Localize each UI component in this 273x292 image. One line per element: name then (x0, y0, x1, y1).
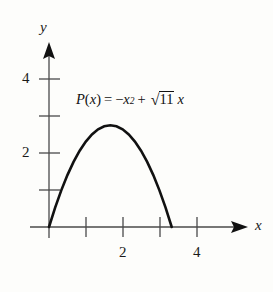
equation-squared-base: x (123, 92, 129, 107)
y-tick-label-4: 4 (22, 71, 30, 86)
equation-trailing-variable: x (177, 92, 183, 107)
equation-function-name: P (76, 92, 85, 107)
x-tick-label-4: 4 (193, 245, 201, 260)
equation-equals: = (104, 92, 112, 107)
equation-plus: + (138, 92, 146, 107)
parabola-figure: 4 2 2 4 y x P(x) = −x2 + √11 x (0, 0, 273, 292)
parabola-curve (49, 125, 172, 227)
square-root-icon: √11 (151, 91, 175, 107)
y-axis-label: y (40, 20, 47, 35)
equation-annotation: P(x) = −x2 + √11 x (76, 91, 184, 107)
y-tick-label-2: 2 (22, 145, 30, 160)
x-tick-label-2: 2 (119, 245, 127, 260)
plot-canvas (0, 0, 273, 292)
x-axis-label: x (255, 218, 262, 233)
equation-paren-close: ) (96, 92, 101, 107)
equation-radicand: 11 (159, 91, 175, 107)
